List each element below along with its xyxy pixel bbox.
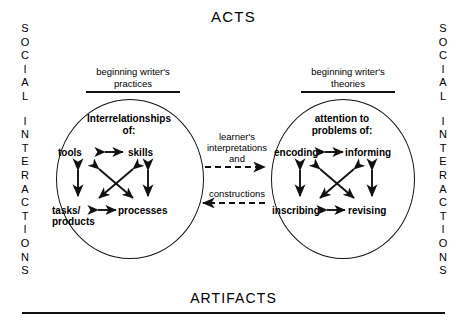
right-group-heading: beginning writer's theories	[285, 66, 411, 93]
right-group-heading-rule	[301, 91, 395, 93]
side-label-right-interactions: I N T E R A C T I O N S	[430, 115, 456, 278]
side-label-right-social: S O C I A L	[430, 22, 456, 104]
node-revising: revising	[348, 205, 402, 216]
right-ellipse-title-line1: attention to	[277, 113, 407, 125]
node-encoding: encoding	[274, 147, 330, 158]
diagram-canvas: ACTS S O C I A L I N T E R A C T I O N S	[0, 0, 467, 325]
node-informing: informing	[345, 147, 407, 158]
node-inscribing: inscribing	[272, 205, 330, 216]
center-forward-line1: learner's	[204, 131, 270, 142]
right-group-heading-line1: beginning writer's	[285, 66, 411, 78]
left-group-heading: beginning writer's practices	[70, 66, 196, 93]
node-processes: processes	[118, 205, 180, 216]
right-group-heading-line2: theories	[285, 78, 411, 90]
left-ellipse-title: Interrelationships of:	[62, 113, 196, 136]
node-tools: tools	[58, 147, 100, 158]
node-tasks-line2: products	[52, 216, 106, 227]
left-ellipse-title-line2: of:	[62, 125, 196, 137]
side-label-left-social: S O C I A L	[12, 22, 38, 104]
center-backward-label: constructions	[204, 188, 270, 199]
left-ellipse-title-line1: Interrelationships	[62, 113, 196, 125]
node-skills: skills	[128, 147, 176, 158]
node-tasks-products: tasks/ products	[52, 205, 106, 227]
right-ellipse-title-line2: problems of:	[277, 125, 407, 137]
bottom-rule	[22, 312, 445, 314]
side-label-right: S O C I A L I N T E R A C T I O N S	[430, 22, 456, 278]
bottom-frame-label: ARTIFACTS	[0, 290, 467, 306]
side-label-right-gap	[430, 104, 456, 115]
right-ellipse-title: attention to problems of:	[277, 113, 407, 136]
node-tasks-line1: tasks/	[52, 205, 106, 216]
left-group-heading-line2: practices	[70, 78, 196, 90]
top-frame-label: ACTS	[0, 8, 467, 25]
side-label-left-gap	[12, 104, 38, 115]
center-forward-line3: and	[204, 153, 270, 164]
side-label-left: S O C I A L I N T E R A C T I O N S	[12, 22, 38, 278]
center-forward-label: learner's interpretations and	[204, 131, 270, 164]
center-forward-line2: interpretations	[204, 142, 270, 153]
side-label-left-interactions: I N T E R A C T I O N S	[12, 115, 38, 278]
center-backward-line1: constructions	[204, 188, 270, 199]
left-group-heading-rule	[86, 91, 180, 93]
left-group-heading-line1: beginning writer's	[70, 66, 196, 78]
